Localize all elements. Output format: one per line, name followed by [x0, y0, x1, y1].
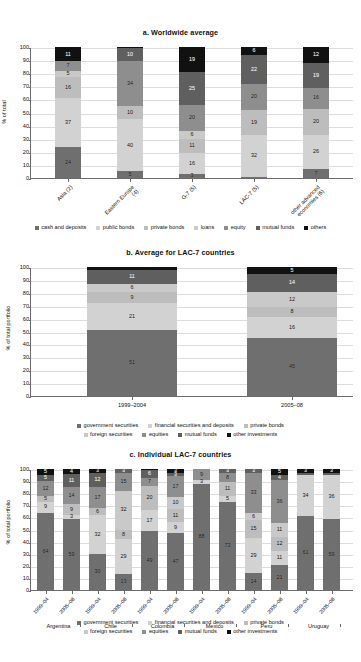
bar-segment[interactable]: 22 — [241, 55, 267, 84]
bar-segment[interactable]: 29 — [245, 538, 262, 573]
stacked-bar[interactable]: 3121763230 — [89, 469, 106, 590]
bar-segment[interactable] — [241, 177, 267, 178]
stacked-bar[interactable]: 3153282913 — [115, 469, 132, 590]
bar-segment[interactable]: 19 — [303, 63, 329, 88]
bar-segment[interactable]: 30 — [89, 554, 106, 590]
stacked-bar[interactable]: 11692151 — [87, 267, 177, 396]
bar-segment[interactable]: 51 — [87, 330, 177, 396]
bar-segment[interactable]: 9 — [87, 292, 177, 304]
bar-segment[interactable]: 21 — [87, 303, 177, 330]
bar-segment[interactable]: 15 — [115, 473, 132, 491]
bar-segment[interactable]: 14 — [245, 573, 262, 590]
bar-segment[interactable]: 11 — [167, 509, 184, 522]
bar-segment[interactable]: 10 — [117, 48, 143, 61]
legend-item[interactable]: private bonds — [144, 223, 184, 232]
bar-segment[interactable]: 32 — [241, 135, 267, 177]
bar-segment[interactable]: 6 — [141, 470, 158, 477]
bar-segment[interactable]: 59 — [63, 519, 80, 590]
bar-segment[interactable]: 6 — [245, 513, 262, 520]
bar-segment[interactable]: 32 — [115, 491, 132, 530]
bar-segment[interactable]: 17 — [89, 487, 106, 508]
bar-segment[interactable]: 33 — [245, 473, 262, 513]
legend-item[interactable]: cash and deposits — [35, 223, 87, 232]
bar-segment[interactable]: 12 — [271, 537, 288, 552]
bar-segment[interactable]: 36 — [271, 480, 288, 524]
stacked-bar[interactable]: 33461 — [297, 469, 314, 590]
stacked-bar[interactable]: 5141281645 — [247, 267, 337, 396]
legend-item[interactable]: other investments — [227, 430, 278, 439]
bar-segment[interactable]: 73 — [219, 502, 236, 590]
legend-item[interactable]: mutual funds — [178, 430, 217, 439]
bar-segment[interactable]: 9 — [167, 522, 184, 533]
bar-segment[interactable]: 16 — [179, 153, 205, 174]
stacked-bar[interactable]: 3811573 — [219, 469, 236, 590]
legend-item[interactable]: others — [304, 223, 326, 232]
bar-segment[interactable]: 59 — [323, 519, 340, 590]
bar-segment[interactable]: 6 — [89, 508, 106, 515]
legend-item[interactable]: public bonds — [96, 223, 134, 232]
legend-item[interactable]: other investments — [227, 627, 278, 636]
bar-segment[interactable]: 26 — [303, 135, 329, 169]
bar-segment[interactable]: 20 — [141, 486, 158, 510]
bar-segment[interactable]: 9 — [37, 502, 54, 513]
bar-segment[interactable]: 19 — [241, 110, 267, 135]
stacked-bar[interactable]: 192520611163 — [179, 47, 205, 178]
bar-segment[interactable]: 40 — [117, 119, 143, 171]
bar-segment[interactable]: 34 — [117, 61, 143, 106]
bar-segment[interactable]: 29 — [115, 539, 132, 574]
bar-segment[interactable]: 17 — [167, 476, 184, 497]
legend-item[interactable]: private bonds — [244, 421, 284, 430]
bar-segment[interactable]: 19 — [179, 47, 205, 72]
stacked-bar[interactable]: 543611121121 — [271, 469, 288, 590]
bar-segment[interactable]: 12 — [247, 292, 337, 307]
legend-item[interactable]: mutual funds — [256, 223, 295, 232]
bar-segment[interactable]: 11 — [219, 482, 236, 495]
legend-item[interactable]: equities — [142, 627, 168, 636]
bar-segment[interactable]: 8 — [247, 307, 337, 317]
stacked-bar[interactable]: 55125964 — [37, 469, 54, 590]
bar-segment[interactable]: 20 — [241, 84, 267, 110]
legend-item[interactable]: mutual funds — [178, 627, 217, 636]
legend-item[interactable]: financial securities and deposits — [148, 421, 233, 430]
bar-segment[interactable]: 8 — [115, 530, 132, 540]
stacked-bar[interactable]: 103410405 — [117, 47, 143, 178]
legend-item[interactable]: financial securities and deposits — [148, 618, 233, 627]
bar-segment[interactable]: 11 — [55, 47, 81, 61]
bar-segment[interactable]: 17 — [141, 510, 158, 531]
legend-item[interactable]: government securities — [77, 618, 138, 627]
stacked-bar[interactable]: 3336152914 — [245, 469, 262, 590]
legend-item[interactable]: private bonds — [244, 618, 284, 627]
bar-segment[interactable]: 49 — [141, 531, 158, 590]
stacked-bar[interactable]: 411149359 — [63, 469, 80, 590]
bar-segment[interactable]: 21 — [271, 565, 288, 590]
stacked-bar[interactable]: 622201932 — [241, 47, 267, 178]
bar-segment[interactable]: 8 — [219, 473, 236, 483]
bar-segment[interactable]: 37 — [55, 98, 81, 146]
bar-segment[interactable]: 16 — [303, 88, 329, 109]
bar-segment[interactable]: 12 — [303, 47, 329, 63]
bar-segment[interactable]: 34 — [297, 475, 314, 516]
bar-segment[interactable]: 7 — [303, 169, 329, 178]
bar-segment[interactable]: 45 — [247, 338, 337, 396]
bar-segment[interactable]: 6 — [179, 131, 205, 139]
bar-segment[interactable]: 11 — [271, 523, 288, 536]
bar-segment[interactable]: 10 — [167, 497, 184, 509]
stacked-bar[interactable]: 9388 — [193, 469, 210, 590]
bar-segment[interactable]: 32 — [89, 515, 106, 554]
bar-segment[interactable]: 20 — [303, 109, 329, 135]
legend-item[interactable]: foreign securities — [84, 430, 133, 439]
bar-segment[interactable]: 16 — [247, 317, 337, 338]
legend-item[interactable]: government securities — [77, 421, 138, 430]
bar-segment[interactable]: 12 — [89, 473, 106, 488]
bar-segment[interactable]: 61 — [297, 516, 314, 590]
legend-item[interactable]: loans — [194, 223, 214, 232]
stacked-bar[interactable]: 67201749 — [141, 469, 158, 590]
bar-segment[interactable]: 24 — [55, 147, 81, 178]
bar-segment[interactable]: 11 — [87, 270, 177, 284]
bar-segment[interactable]: 11 — [63, 474, 80, 487]
stacked-bar[interactable]: 12191620267 — [303, 47, 329, 178]
bar-segment[interactable]: 11 — [271, 551, 288, 564]
bar-segment[interactable]: 88 — [193, 484, 210, 590]
bar-segment[interactable]: 16 — [55, 77, 81, 98]
bar-segment[interactable]: 36 — [323, 475, 340, 519]
